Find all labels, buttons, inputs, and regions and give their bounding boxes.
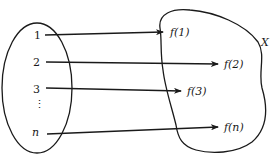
domain-element-2: 2 — [33, 56, 40, 69]
image-f3: f(3) — [186, 85, 207, 98]
mapping-arrow-3 — [46, 88, 181, 91]
mapping-arrow-2 — [46, 62, 218, 64]
codomain-label-X: X — [260, 36, 270, 49]
mapping-arrow-1 — [45, 32, 163, 35]
function-mapping-diagram: 1 2 3 ⋮ n f(1) f(2) f(3) f(n) X — [0, 0, 272, 157]
image-fn: f(n) — [223, 121, 244, 134]
domain-element-1: 1 — [34, 29, 41, 42]
domain-ellipsis: ⋮ — [34, 98, 45, 111]
domain-element-n: n — [32, 126, 39, 139]
domain-element-3: 3 — [33, 83, 40, 96]
mapping-arrow-n — [47, 127, 218, 134]
image-f1: f(1) — [169, 26, 190, 39]
image-f2: f(2) — [223, 58, 244, 71]
